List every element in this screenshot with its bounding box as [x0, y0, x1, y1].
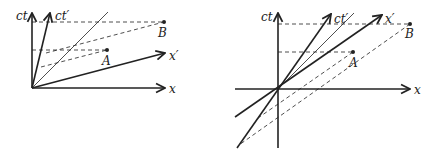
- left-label-ct-prime: ct′: [55, 9, 70, 23]
- left-dashed-A-ctprime: [41, 50, 107, 67]
- left-label-ct: ct: [16, 9, 28, 23]
- left-label-x: x: [169, 82, 176, 96]
- left-ct-prime-axis: [32, 13, 50, 88]
- right-diagram: ct ct′ x′ x A B: [235, 10, 421, 148]
- right-label-ct: ct: [261, 10, 273, 24]
- right-label-x: x: [414, 83, 421, 97]
- left-label-A: A: [101, 54, 111, 68]
- left-label-x-prime: x′: [169, 49, 179, 63]
- right-label-x-prime: x′: [385, 12, 395, 26]
- right-label-B: B: [404, 27, 414, 41]
- right-label-ct-prime: ct′: [334, 12, 349, 26]
- left-dashed-B-ctprime: [46, 22, 164, 53]
- right-point-A: [351, 50, 355, 54]
- spacetime-diagrams: ct ct′ x′ x A B ct ct′ x′ x A B: [0, 0, 435, 159]
- left-point-A: [105, 48, 109, 52]
- right-ct-prime-axis: [237, 14, 331, 148]
- right-x-prime-axis: [235, 15, 382, 117]
- right-label-A: A: [348, 56, 358, 70]
- left-diagram: ct ct′ x′ x A B: [16, 9, 179, 96]
- left-point-B: [162, 20, 166, 24]
- right-point-B: [408, 22, 412, 26]
- left-label-B: B: [157, 26, 167, 40]
- left-x-prime-axis: [32, 53, 165, 88]
